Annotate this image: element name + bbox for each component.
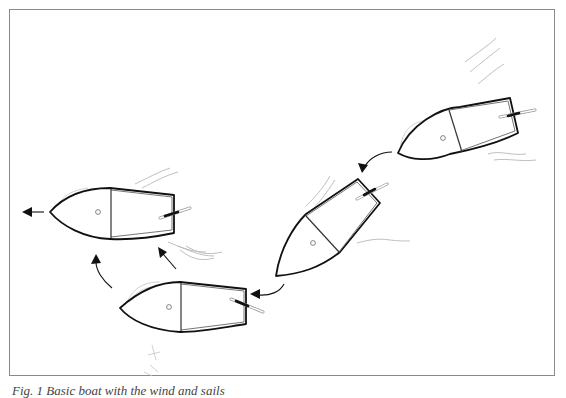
wake-lines [488,153,536,161]
arrow-3-to-4-curve [91,254,112,288]
arrow-1-to-2 [358,152,392,173]
mast-circle [441,136,446,141]
boat-3 [120,246,263,376]
arrow-heading [22,207,44,217]
faint-sketch-marks [144,345,160,376]
boat-1 [398,38,536,161]
wake-lines [357,239,410,243]
arrow-2-to-3 [250,284,284,299]
boat-2 [276,176,410,276]
wake-lines [465,38,504,84]
arrow-3-to-4-straight [158,247,176,269]
wake-lines [180,246,222,260]
boat-hull [398,98,518,159]
figure-caption: Fig. 1 Basic boat with the wind and sail… [12,384,225,398]
mast-circle [167,305,172,310]
boat-4 [50,168,214,256]
mast-circle [96,210,101,215]
mast-circle [311,241,316,246]
wake-lines [135,168,178,188]
